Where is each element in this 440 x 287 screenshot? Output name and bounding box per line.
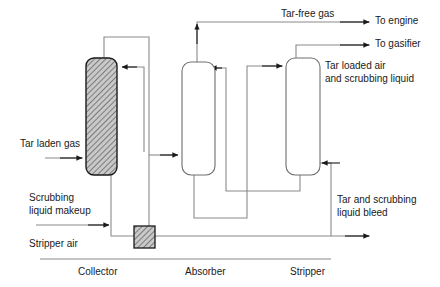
collector-vessel[interactable] — [86, 58, 117, 175]
label-stripper-air: Stripper air — [29, 238, 78, 251]
label-tar-bleed-line2: liquid bleed — [337, 207, 388, 220]
pipe-absorber-right-inlet — [215, 68, 247, 191]
unit-label-collector: Collector — [78, 266, 117, 279]
pipe-stripper-bottom-return — [247, 175, 300, 191]
unit-label-absorber: Absorber — [185, 266, 226, 279]
process-flow-diagram: Tar-free gas To engine To gasifier Tar l… — [0, 0, 440, 287]
label-to-engine: To engine — [375, 15, 418, 28]
label-tar-free-gas: Tar-free gas — [281, 8, 334, 21]
unit-label-stripper: Stripper — [290, 266, 325, 279]
stripper-air-mixer[interactable] — [134, 226, 155, 248]
pipe-to-gasifier — [296, 45, 370, 58]
label-tar-bleed-line1: Tar and scrubbing — [337, 194, 417, 207]
label-scrubbing-liquid-makeup-line2: liquid makeup — [29, 205, 91, 218]
label-scrubbing-liquid-makeup-line1: Scrubbing — [29, 192, 74, 205]
label-tar-laden-gas: Tar laden gas — [20, 138, 80, 151]
stripper-vessel[interactable] — [286, 58, 320, 175]
pipe-tar-free-gas — [197, 22, 370, 62]
label-to-gasifier: To gasifier — [375, 38, 421, 51]
label-tar-loaded-air-line2: and scrubbing liquid — [325, 73, 414, 86]
absorber-vessel[interactable] — [182, 62, 215, 175]
pipe-into-collector-right — [123, 67, 144, 152]
label-tar-loaded-air-line1: Tar loaded air — [325, 60, 386, 73]
